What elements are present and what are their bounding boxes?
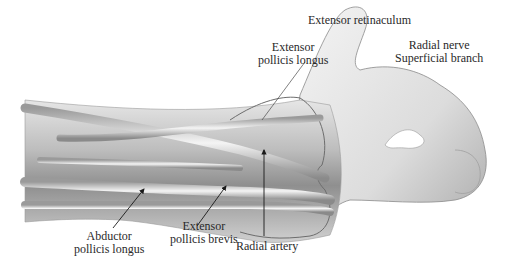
label-radial-nerve: Radial nerve Superficial branch <box>395 39 483 65</box>
label-radial-artery: Radial artery <box>236 240 298 253</box>
label-extensor-pollicis-longus: Extensor pollicis longus <box>258 41 328 67</box>
label-abductor-pollicis-longus: Abductor pollicis longus <box>74 230 144 256</box>
label-extensor-retinaculum: Extensor retinaculum <box>308 14 411 27</box>
anatomy-figure: Extensor retinaculum Extensor pollicis l… <box>0 0 510 267</box>
label-extensor-pollicis-brevis: Extensor pollicis brevis <box>170 220 238 246</box>
